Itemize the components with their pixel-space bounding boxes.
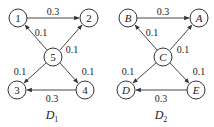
node-1: 1 bbox=[9, 9, 27, 27]
node-3: 3 bbox=[8, 81, 26, 99]
graph-d2: 0.3 0.1 0.1 0.1 0.1 0.3 B A C D E D2 bbox=[117, 6, 208, 125]
weight-b-a: 0.3 bbox=[157, 6, 170, 17]
weight-e-d: 0.3 bbox=[155, 93, 168, 104]
svg-text:C: C bbox=[159, 51, 167, 63]
weight-c-e: 0.1 bbox=[193, 66, 206, 77]
weight-5-4: 0.1 bbox=[82, 66, 95, 77]
svg-text:2: 2 bbox=[86, 12, 92, 24]
node-c: C bbox=[154, 48, 172, 66]
svg-text:B: B bbox=[125, 12, 132, 24]
weight-5-3: 0.1 bbox=[14, 66, 27, 77]
node-a: A bbox=[190, 9, 208, 27]
weight-c-a: 0.1 bbox=[177, 44, 190, 55]
node-b: B bbox=[119, 9, 137, 27]
edge-5-to-3 bbox=[24, 63, 46, 83]
weight-c-d: 0.1 bbox=[122, 66, 135, 77]
svg-text:D: D bbox=[121, 84, 130, 96]
weight-4-3: 0.3 bbox=[46, 93, 59, 104]
edge-c-to-d bbox=[133, 63, 156, 83]
weight-5-2: 0.1 bbox=[66, 44, 79, 55]
weight-c-b: 0.1 bbox=[146, 27, 159, 38]
weight-5-1: 0.1 bbox=[35, 27, 48, 38]
graph-label-d2: D2 bbox=[154, 108, 168, 124]
node-2: 2 bbox=[80, 9, 98, 27]
node-d: D bbox=[117, 81, 135, 99]
graph-d1: 0.3 0.1 0.1 0.1 0.1 0.3 1 2 5 3 4 D1 bbox=[8, 6, 98, 125]
node-5: 5 bbox=[44, 48, 62, 66]
svg-text:A: A bbox=[195, 12, 203, 24]
edge-5-to-4 bbox=[60, 63, 78, 83]
svg-text:5: 5 bbox=[50, 51, 56, 63]
svg-text:1: 1 bbox=[15, 12, 21, 24]
svg-text:3: 3 bbox=[14, 84, 20, 96]
edge-c-to-e bbox=[170, 63, 189, 83]
svg-text:E: E bbox=[192, 84, 200, 96]
graph-label-d1: D1 bbox=[45, 108, 59, 124]
weight-1-2: 0.3 bbox=[47, 6, 60, 17]
diagram-canvas: 0.3 0.1 0.1 0.1 0.1 0.3 1 2 5 3 4 D1 bbox=[0, 0, 214, 127]
svg-text:4: 4 bbox=[82, 84, 88, 96]
node-e: E bbox=[187, 81, 205, 99]
node-4: 4 bbox=[76, 81, 94, 99]
